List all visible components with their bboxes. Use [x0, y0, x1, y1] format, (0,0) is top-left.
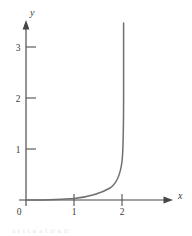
x-tick-label-1: 1: [72, 207, 77, 217]
function-curve: [26, 23, 124, 200]
y-axis-label: y: [29, 7, 35, 18]
figure-container: y x 0 1 2 1 2 3 a l t l n a l tl n ll: [0, 0, 192, 236]
x-axis-label: x: [177, 190, 183, 201]
graph-plot: y x 0 1 2 1 2 3: [0, 0, 192, 236]
y-tick-label-3: 3: [16, 43, 21, 53]
y-axis-arrow-icon: [23, 20, 30, 30]
y-tick-label-2: 2: [16, 94, 21, 104]
origin-tick-label: 0: [17, 207, 22, 217]
x-axis-arrow-icon: [164, 197, 174, 204]
cropped-caption-remnant: a l t l n a l tl n ll: [12, 227, 180, 235]
x-tick-label-2: 2: [120, 207, 125, 217]
y-tick-label-1: 1: [16, 145, 21, 155]
